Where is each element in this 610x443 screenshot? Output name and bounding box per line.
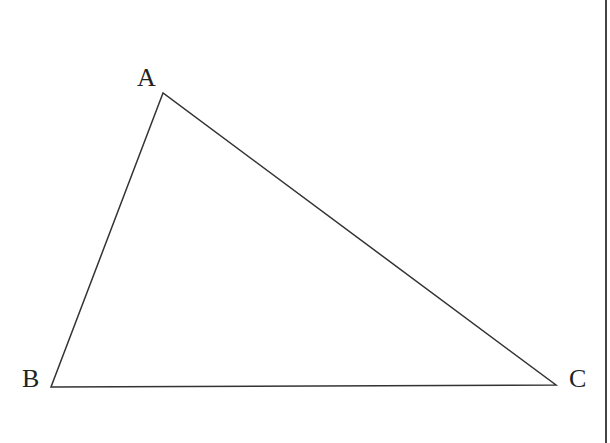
vertex-label-b: B: [22, 366, 39, 392]
triangle-figure: [0, 0, 610, 443]
right-border-line: [605, 0, 607, 443]
vertex-label-c: C: [569, 366, 586, 392]
vertex-label-a: A: [137, 65, 156, 91]
diagram-canvas: A B C: [0, 0, 610, 443]
triangle-abc: [51, 93, 556, 387]
